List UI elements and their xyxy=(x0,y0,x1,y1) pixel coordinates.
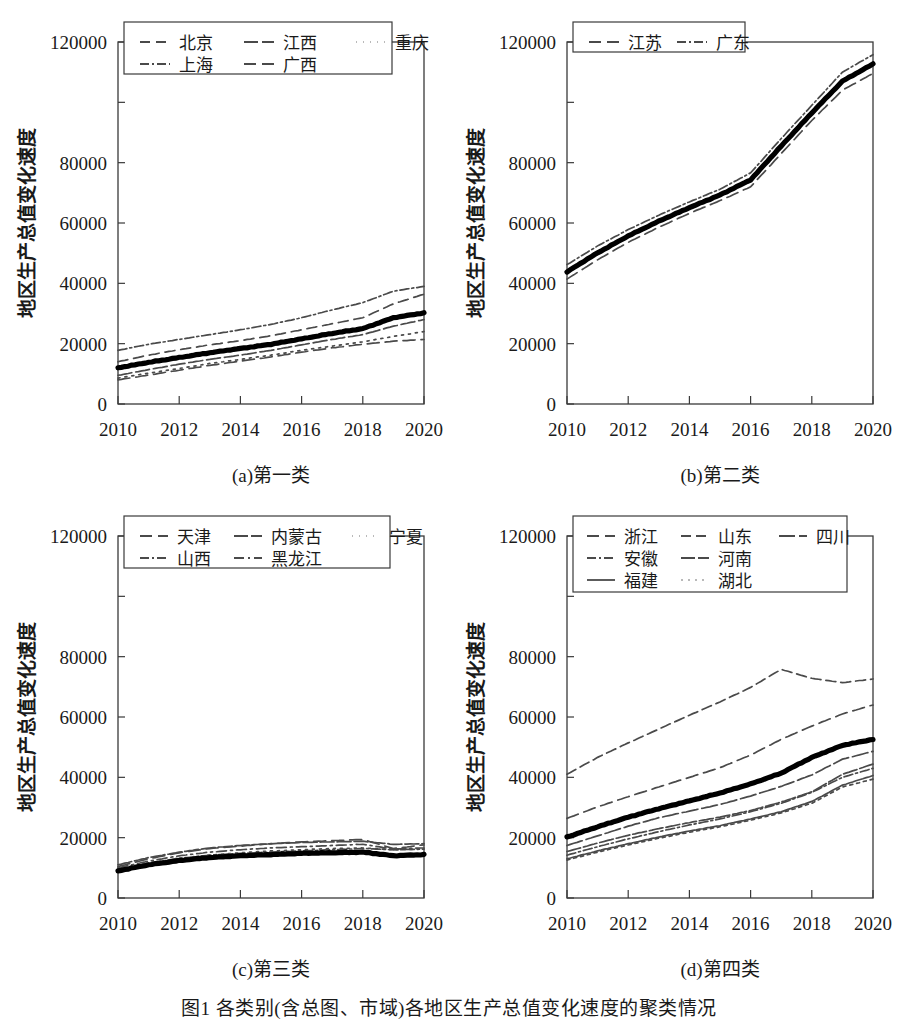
x-tick-label: 2016 xyxy=(732,419,770,440)
x-tick-label: 2014 xyxy=(221,913,260,934)
panel-caption: (b)第二类 xyxy=(680,465,759,487)
y-tick-label: 120000 xyxy=(499,32,556,53)
chart-panel-b: 0200004000060000800001200002010201220142… xyxy=(449,0,898,500)
y-tick-label: 0 xyxy=(547,394,557,415)
y-axis-title: 地区生产总值变化速度 xyxy=(465,127,487,318)
legend-label: 福建 xyxy=(624,572,658,591)
x-tick-label: 2012 xyxy=(609,419,647,440)
chart-svg-c: 0200004000060000800001200002010201220142… xyxy=(0,494,449,994)
y-tick-label: 0 xyxy=(547,888,557,909)
y-axis-title: 地区生产总值变化速度 xyxy=(16,127,38,318)
series-line-mean xyxy=(567,740,873,837)
y-axis-title: 地区生产总值变化速度 xyxy=(465,621,487,812)
legend-label: 广东 xyxy=(716,34,750,53)
legend: 天津山西内蒙古黑龙江宁夏 xyxy=(124,516,423,569)
y-tick-label: 40000 xyxy=(60,767,108,788)
x-tick-label: 2010 xyxy=(99,419,137,440)
x-tick-label: 2010 xyxy=(548,419,586,440)
series-line xyxy=(567,751,873,845)
y-tick-label: 0 xyxy=(98,888,108,909)
chart-panel-c: 0200004000060000800001200002010201220142… xyxy=(0,494,449,994)
legend-label: 浙江 xyxy=(624,528,658,547)
x-tick-label: 2018 xyxy=(344,913,382,934)
y-tick-label: 40000 xyxy=(509,273,557,294)
y-tick-label: 20000 xyxy=(509,828,557,849)
y-tick-label: 120000 xyxy=(50,32,107,53)
series-line xyxy=(567,73,873,279)
y-tick-label: 40000 xyxy=(509,767,557,788)
legend-label: 湖北 xyxy=(718,572,752,591)
y-tick-label: 60000 xyxy=(60,213,108,234)
chart-svg-a: 0200004000060000800001200002010201220142… xyxy=(0,0,449,500)
legend: 浙江安徽福建山东河南湖北四川 xyxy=(573,516,850,592)
y-tick-label: 60000 xyxy=(509,213,557,234)
y-tick-label: 80000 xyxy=(509,647,557,668)
x-tick-label: 2014 xyxy=(221,419,260,440)
x-tick-label: 2014 xyxy=(670,913,709,934)
series-line xyxy=(567,669,873,774)
series-line xyxy=(567,768,873,855)
y-tick-label: 60000 xyxy=(509,707,557,728)
legend-label: 江苏 xyxy=(628,34,662,53)
chart-panel-a: 0200004000060000800001200002010201220142… xyxy=(0,0,449,500)
y-tick-label: 20000 xyxy=(509,334,557,355)
chart-svg-b: 0200004000060000800001200002010201220142… xyxy=(449,0,898,500)
y-tick-label: 20000 xyxy=(60,828,108,849)
y-tick-label: 80000 xyxy=(60,153,108,174)
panel-caption: (c)第三类 xyxy=(232,959,310,981)
legend-label: 山西 xyxy=(177,550,211,569)
legend-label: 广西 xyxy=(283,56,317,75)
x-tick-label: 2016 xyxy=(283,913,321,934)
x-tick-label: 2016 xyxy=(732,913,770,934)
y-tick-label: 120000 xyxy=(50,526,107,547)
y-axis-title: 地区生产总值变化速度 xyxy=(16,621,38,812)
legend-label: 河南 xyxy=(718,550,752,569)
figure-cluster-gdp-growth: 0200004000060000800001200002010201220142… xyxy=(0,0,898,1023)
x-tick-label: 2018 xyxy=(793,913,831,934)
legend-label: 宁夏 xyxy=(389,528,423,547)
legend-label: 重庆 xyxy=(395,34,429,53)
legend-label: 天津 xyxy=(177,528,211,547)
legend: 北京上海江西广西重庆 xyxy=(124,22,429,75)
series-line-mean xyxy=(567,64,873,272)
x-tick-label: 2012 xyxy=(160,913,198,934)
x-tick-label: 2020 xyxy=(405,419,443,440)
series-line xyxy=(567,705,873,818)
y-tick-label: 40000 xyxy=(60,273,108,294)
y-tick-label: 120000 xyxy=(499,526,556,547)
x-tick-label: 2018 xyxy=(344,419,382,440)
x-tick-label: 2016 xyxy=(283,419,321,440)
legend: 江苏广东 xyxy=(573,22,750,53)
legend-label: 上海 xyxy=(179,56,213,75)
legend-label: 山东 xyxy=(718,528,752,547)
series-line xyxy=(567,55,873,265)
legend-box xyxy=(124,516,390,568)
panel-caption: (d)第四类 xyxy=(680,959,759,981)
series-line xyxy=(567,764,873,851)
series-line xyxy=(118,332,424,379)
x-tick-label: 2020 xyxy=(854,419,892,440)
series-line xyxy=(118,286,424,350)
panel-caption: (a)第一类 xyxy=(232,465,310,487)
chart-panel-d: 0200004000060000800001200002010201220142… xyxy=(449,494,898,994)
x-tick-label: 2018 xyxy=(793,419,831,440)
x-tick-label: 2010 xyxy=(548,913,586,934)
x-tick-label: 2012 xyxy=(160,419,198,440)
series-line-mean xyxy=(118,313,424,368)
y-tick-label: 80000 xyxy=(60,647,108,668)
legend-box xyxy=(124,22,392,74)
series-line xyxy=(118,294,424,361)
legend-label: 四川 xyxy=(816,528,850,547)
x-tick-label: 2010 xyxy=(99,913,137,934)
y-tick-label: 80000 xyxy=(509,153,557,174)
legend-label: 安徽 xyxy=(624,550,658,569)
x-tick-label: 2014 xyxy=(670,419,709,440)
y-tick-label: 60000 xyxy=(60,707,108,728)
x-tick-label: 2020 xyxy=(854,913,892,934)
legend-label: 内蒙古 xyxy=(271,528,322,547)
figure-caption: 图1 各类别(含总图、市域)各地区生产总值变化速度的聚类情况 xyxy=(0,993,898,1023)
y-tick-label: 0 xyxy=(98,394,108,415)
y-tick-label: 20000 xyxy=(60,334,108,355)
legend-label: 北京 xyxy=(179,34,213,53)
x-tick-label: 2012 xyxy=(609,913,647,934)
